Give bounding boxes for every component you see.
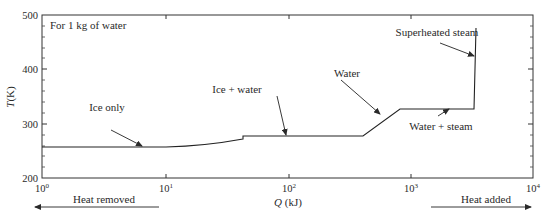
svg-text:103: 103	[404, 182, 419, 194]
y-tick-label: 400	[22, 64, 38, 75]
plot-note: For 1 kg of water	[50, 19, 127, 31]
annotation-water-steam: Water + steam	[409, 120, 473, 132]
y-minor-ticks	[42, 26, 533, 167]
plot-frame	[42, 15, 533, 178]
heat-removed-label: Heat removed	[73, 193, 135, 205]
y-tick-label: 300	[22, 119, 38, 130]
annotation-ice-water: Ice + water	[212, 83, 262, 95]
x-major-ticks	[166, 15, 411, 178]
arrow-water-steam	[438, 109, 449, 116]
x-axis-label: Q (kJ)	[274, 196, 302, 209]
annotation-ice-only: Ice only	[89, 101, 125, 113]
svg-text:100: 100	[35, 182, 50, 194]
arrow-ice-water	[277, 96, 286, 135]
arrow-water	[341, 80, 380, 114]
svg-text:102: 102	[282, 182, 297, 194]
heat-added-label: Heat added	[461, 193, 511, 205]
annotation-water: Water	[334, 67, 360, 79]
svg-text:101: 101	[159, 182, 174, 194]
y-major-ticks	[42, 69, 533, 124]
y-tick-label: 500	[22, 10, 38, 21]
arrow-superheated-steam	[440, 43, 474, 56]
y-axis-label: T(K)	[4, 86, 17, 108]
svg-text:104: 104	[526, 182, 541, 194]
arrow-ice-only	[111, 130, 142, 146]
heating-curve-chart: 200 300 400 500 100 101 102 103 104 Q (k…	[0, 0, 550, 216]
annotation-superheated-steam: Superheated steam	[396, 26, 479, 38]
